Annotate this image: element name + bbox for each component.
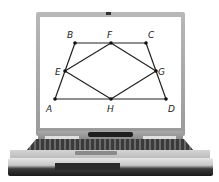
point-label-e: E [55, 67, 61, 77]
segment-ef [65, 43, 111, 71]
point-b [73, 41, 77, 45]
segment-he [65, 71, 111, 99]
point-label-g: G [158, 67, 165, 77]
point-label-d: D [168, 104, 175, 114]
point-label-a: A [45, 104, 52, 114]
point-h [109, 97, 113, 101]
point-d [164, 97, 168, 101]
point-label-b: B [67, 30, 73, 40]
diagram-segments [55, 43, 166, 99]
point-label-f: F [107, 30, 113, 40]
point-label-h: H [107, 104, 114, 114]
geometry-diagram: ABCDEFGH [0, 0, 219, 182]
point-e [63, 69, 67, 73]
segment-gh [111, 71, 156, 99]
segment-fg [111, 43, 156, 71]
diagram-points [53, 41, 168, 101]
point-label-c: C [148, 30, 155, 40]
point-c [144, 41, 148, 45]
point-f [109, 41, 113, 45]
point-a [53, 97, 57, 101]
